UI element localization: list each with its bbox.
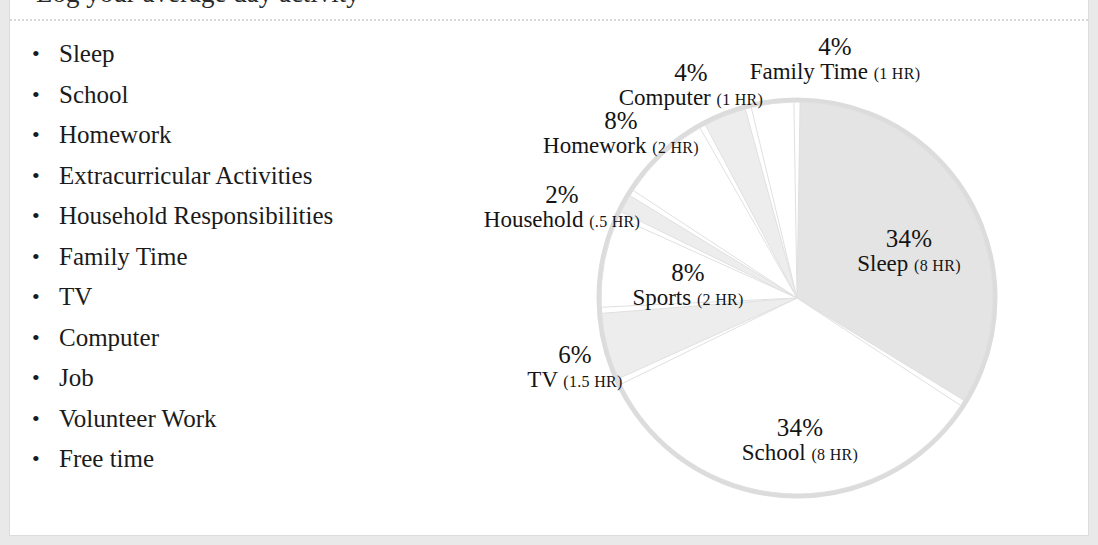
bullet-icon: • [32, 358, 40, 399]
pie-label-sports-name: Sports [632, 285, 691, 310]
list-item-label: Volunteer Work [59, 405, 216, 432]
bullet-icon: • [32, 237, 40, 278]
list-item: •Family Time [28, 237, 458, 278]
pie-label-tv-percent: 6% [480, 342, 670, 368]
pie-label-school: 34% School (8 HR) [705, 415, 895, 464]
pie-label-sports: 8% Sports (2 HR) [588, 260, 788, 309]
list-item-label: Free time [59, 445, 154, 472]
page-frame-right [1089, 0, 1098, 545]
bullet-icon: • [32, 318, 40, 359]
bullet-icon: • [32, 196, 40, 237]
bullet-icon: • [32, 156, 40, 197]
list-item-label: Family Time [59, 243, 188, 270]
pie-label-sleep: 34% Sleep (8 HR) [819, 226, 999, 275]
list-item: •Household Responsibilities [28, 196, 458, 237]
pie-label-homework: 8% Homework (2 HR) [486, 108, 756, 157]
pie-label-sleep-percent: 34% [819, 226, 999, 252]
bullet-icon: • [32, 115, 40, 156]
pie-label-household-hours: (.5 HR) [589, 213, 640, 230]
list-item: •Volunteer Work [28, 399, 458, 440]
list-item: •TV [28, 277, 458, 318]
page-frame-bottom [0, 536, 1098, 545]
page-inner-edge-bottom [9, 535, 1089, 536]
pie-label-school-name: School [742, 440, 806, 465]
pie-label-homework-percent: 8% [486, 108, 756, 134]
activity-bullet-list: •Sleep •School •Homework •Extracurricula… [28, 34, 458, 480]
pie-label-computer-name: Computer [619, 85, 711, 110]
list-item-label: Extracurricular Activities [59, 162, 312, 189]
pie-label-school-hours: (8 HR) [811, 446, 858, 463]
list-item: •Free time [28, 439, 458, 480]
clipped-heading: Log your average day activity [10, 0, 1088, 19]
page-frame-left [0, 0, 9, 545]
list-item-label: School [59, 81, 128, 108]
list-item-label: TV [59, 283, 92, 310]
pie-chart: 34% Sleep (8 HR) 34% School (8 HR) 6% TV… [560, 20, 1040, 520]
bullet-icon: • [32, 277, 40, 318]
pie-label-family-time-hours: (1 HR) [874, 65, 921, 82]
pie-label-family-time: 4% Family Time (1 HR) [710, 34, 960, 83]
list-item-label: Computer [59, 324, 159, 351]
slide-canvas: Log your average day activity •Sleep •Sc… [0, 0, 1098, 545]
pie-label-computer-hours: (1 HR) [717, 91, 764, 108]
list-item: •Job [28, 358, 458, 399]
pie-label-tv-name: TV [527, 367, 557, 392]
pie-label-household: 2% Household (.5 HR) [432, 182, 692, 231]
list-item: •Extracurricular Activities [28, 156, 458, 197]
pie-label-family-time-percent: 4% [710, 34, 960, 60]
list-item-label: Sleep [59, 40, 115, 67]
bullet-icon: • [32, 439, 40, 480]
pie-label-tv: 6% TV (1.5 HR) [480, 342, 670, 391]
pie-label-household-name: Household [484, 207, 584, 232]
pie-label-homework-name: Homework [543, 133, 646, 158]
pie-label-sports-hours: (2 HR) [697, 291, 744, 308]
pie-label-sleep-hours: (8 HR) [914, 257, 961, 274]
list-item: •Sleep [28, 34, 458, 75]
pie-label-tv-hours: (1.5 HR) [563, 373, 622, 390]
list-item: •Computer [28, 318, 458, 359]
page-inner-edge-left [9, 0, 10, 536]
page-inner-edge-right [1088, 0, 1089, 536]
pie-label-household-percent: 2% [432, 182, 692, 208]
list-item-label: Job [59, 364, 94, 391]
pie-label-sleep-name: Sleep [857, 251, 908, 276]
pie-label-family-time-name: Family Time [750, 59, 868, 84]
list-item-label: Homework [59, 121, 171, 148]
pie-label-homework-hours: (2 HR) [652, 139, 699, 156]
pie-label-sports-percent: 8% [588, 260, 788, 286]
pie-label-school-percent: 34% [705, 415, 895, 441]
list-item-label: Household Responsibilities [59, 202, 333, 229]
page-title: Log your average day activity [36, 0, 360, 9]
list-item: •Homework [28, 115, 458, 156]
list-item: •School [28, 75, 458, 116]
bullet-icon: • [32, 75, 40, 116]
bullet-icon: • [32, 34, 40, 75]
bullet-icon: • [32, 399, 40, 440]
